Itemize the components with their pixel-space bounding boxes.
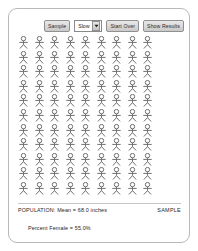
population-figure-grid: [16, 36, 156, 197]
person-figure-icon: [65, 65, 76, 78]
person-figure-icon: [18, 138, 29, 151]
sampling-applet-panel: Sample Slow Start Over Show Results POPU…: [8, 8, 190, 243]
person-figure-icon: [142, 167, 153, 180]
person-figure-icon: [96, 138, 107, 151]
person-figure-icon: [127, 36, 138, 49]
person-figure-icon: [127, 124, 138, 137]
person-figure-icon: [80, 182, 91, 195]
person-figure-icon: [111, 109, 122, 122]
person-figure-icon: [80, 124, 91, 137]
person-figure-icon: [127, 94, 138, 107]
person-figure-icon: [49, 167, 60, 180]
person-figure-icon: [34, 36, 45, 49]
person-figure-icon: [49, 80, 60, 93]
person-figure-icon: [34, 94, 45, 107]
speed-select[interactable]: Slow: [74, 20, 102, 32]
person-figure-icon: [65, 153, 76, 166]
footer: POPULATION: Mean = 68.0 inches SAMPLE Pe…: [9, 207, 189, 234]
person-figure-icon: [96, 167, 107, 180]
person-figure-icon: [18, 109, 29, 122]
person-figure-icon: [49, 36, 60, 49]
person-figure-icon: [111, 138, 122, 151]
person-figure-icon: [34, 65, 45, 78]
person-figure-icon: [127, 51, 138, 64]
person-figure-icon: [80, 80, 91, 93]
person-figure-icon: [111, 51, 122, 64]
person-figure-icon: [142, 182, 153, 195]
person-figure-icon: [49, 138, 60, 151]
person-figure-icon: [18, 167, 29, 180]
person-figure-icon: [142, 36, 153, 49]
person-figure-icon: [96, 80, 107, 93]
person-figure-icon: [34, 80, 45, 93]
person-figure-icon: [65, 36, 76, 49]
person-figure-icon: [127, 153, 138, 166]
population-display: [9, 36, 189, 201]
person-figure-icon: [111, 153, 122, 166]
person-figure-icon: [111, 36, 122, 49]
person-figure-icon: [111, 94, 122, 107]
show-results-button[interactable]: Show Results: [143, 20, 184, 32]
person-figure-icon: [18, 124, 29, 137]
person-figure-icon: [80, 138, 91, 151]
person-figure-icon: [65, 80, 76, 93]
population-mean-stat: POPULATION: Mean = 68.0 inches: [18, 207, 107, 213]
person-figure-icon: [18, 65, 29, 78]
person-figure-icon: [96, 36, 107, 49]
person-figure-icon: [49, 94, 60, 107]
person-figure-icon: [96, 153, 107, 166]
person-figure-icon: [34, 167, 45, 180]
sample-button[interactable]: Sample: [44, 20, 70, 32]
person-figure-icon: [111, 80, 122, 93]
footer-divider: [18, 203, 181, 204]
person-figure-icon: [18, 182, 29, 195]
person-figure-icon: [18, 36, 29, 49]
person-figure-icon: [142, 124, 153, 137]
person-figure-icon: [49, 51, 60, 64]
sample-label: SAMPLE: [157, 207, 181, 213]
person-figure-icon: [65, 51, 76, 64]
person-figure-icon: [111, 167, 122, 180]
person-figure-icon: [34, 124, 45, 137]
person-figure-icon: [18, 51, 29, 64]
person-figure-icon: [34, 182, 45, 195]
percent-female-stat: Percent Female = 55.0%: [28, 225, 91, 231]
person-figure-icon: [65, 182, 76, 195]
person-figure-icon: [142, 109, 153, 122]
person-figure-icon: [96, 51, 107, 64]
person-figure-icon: [142, 138, 153, 151]
person-figure-icon: [34, 153, 45, 166]
person-figure-icon: [65, 109, 76, 122]
person-figure-icon: [111, 65, 122, 78]
person-figure-icon: [142, 65, 153, 78]
person-figure-icon: [80, 167, 91, 180]
person-figure-icon: [96, 65, 107, 78]
person-figure-icon: [80, 153, 91, 166]
person-figure-icon: [96, 182, 107, 195]
person-figure-icon: [142, 153, 153, 166]
person-figure-icon: [34, 138, 45, 151]
person-figure-icon: [127, 109, 138, 122]
person-figure-icon: [65, 124, 76, 137]
person-figure-icon: [49, 65, 60, 78]
chevron-down-icon[interactable]: [92, 21, 100, 31]
person-figure-icon: [80, 65, 91, 78]
person-figure-icon: [96, 124, 107, 137]
person-figure-icon: [127, 138, 138, 151]
start-over-button[interactable]: Start Over: [106, 20, 139, 32]
person-figure-icon: [127, 167, 138, 180]
person-figure-icon: [34, 51, 45, 64]
person-figure-icon: [65, 167, 76, 180]
person-figure-icon: [49, 182, 60, 195]
person-figure-icon: [111, 182, 122, 195]
person-figure-icon: [18, 153, 29, 166]
person-figure-icon: [49, 124, 60, 137]
person-figure-icon: [80, 109, 91, 122]
person-figure-icon: [80, 36, 91, 49]
speed-select-value: Slow: [78, 23, 89, 29]
person-figure-icon: [142, 80, 153, 93]
person-figure-icon: [127, 182, 138, 195]
person-figure-icon: [18, 80, 29, 93]
person-figure-icon: [142, 94, 153, 107]
person-figure-icon: [111, 124, 122, 137]
